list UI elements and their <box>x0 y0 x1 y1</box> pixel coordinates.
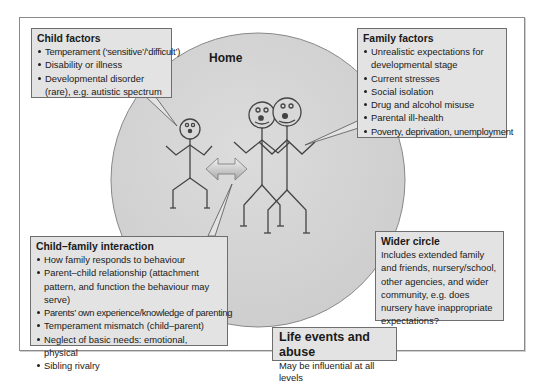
family-factors-title: Family factors <box>363 32 501 45</box>
interaction-item: How family responds to behaviour <box>36 253 222 266</box>
life-events-title: Life events and abuse <box>279 330 390 360</box>
child-family-interaction-box: Child–family interaction How family resp… <box>30 236 228 346</box>
family-factor-item: Poverty, deprivation, unemployment <box>363 125 501 138</box>
life-events-text: May be influential at all levels <box>279 360 390 384</box>
family-factor-item: Unrealistic expectations for development… <box>363 45 501 72</box>
home-label: Home <box>209 51 242 65</box>
family-factor-item: Drug and alcohol misuse <box>363 98 501 111</box>
interaction-item: Parent–child relationship (attachment pa… <box>36 266 222 306</box>
wider-circle-title: Wider circle <box>381 235 498 248</box>
interaction-item: Parents’ own experience/knowledge of par… <box>36 306 222 319</box>
family-factor-item: Current stresses <box>363 72 501 85</box>
family-factor-item: Social isolation <box>363 85 501 98</box>
interaction-item: Temperament mismatch (child–parent) <box>36 319 222 332</box>
family-factors-box: Family factors Unrealistic expectations … <box>357 28 507 138</box>
child-family-interaction-title: Child–family interaction <box>36 240 222 253</box>
family-factor-item: Parental ill-health <box>363 111 501 124</box>
child-factor-item: Disability or illness <box>37 58 166 71</box>
wider-circle-text: Includes extended family and friends, nu… <box>381 248 498 328</box>
child-factors-title: Child factors <box>37 32 166 45</box>
child-factor-item: Developmental disorder (rare), e.g. auti… <box>37 72 166 99</box>
child-factor-item: Temperament (‘sensitive’/‘difficult’) <box>37 45 166 58</box>
interaction-item: Sibling rivalry <box>36 359 222 372</box>
life-events-box: Life events and abuse May be influential… <box>272 327 397 361</box>
child-factors-box: Child factors Temperament (‘sensitive’/‘… <box>31 28 172 98</box>
interaction-item: Neglect of basic needs: emotional, physi… <box>36 333 222 360</box>
wider-circle-box: Wider circle Includes extended family an… <box>375 231 504 321</box>
